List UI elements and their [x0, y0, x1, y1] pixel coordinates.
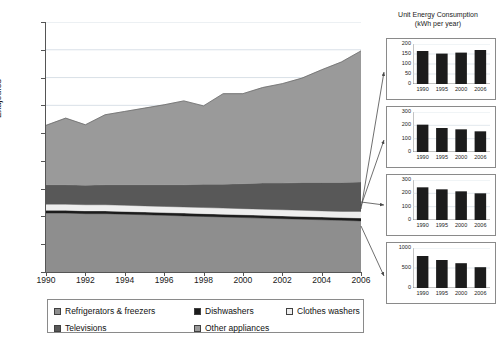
legend-label-refrigerators-freezers: Refrigerators & freezers [65, 307, 155, 316]
inset-bar [455, 129, 467, 152]
area-band-other-appliances [46, 51, 361, 185]
inset-chart-clothes-washers: 01002003001990199520002006 [386, 106, 496, 168]
area-band-refrigerators-freezers [46, 213, 361, 272]
inset-x-tick-label: 2006 [471, 291, 489, 297]
inset-y-tick-label: 1000 [389, 245, 411, 251]
inset-x-tick-label: 1995 [433, 155, 451, 161]
inset-bar [475, 50, 487, 84]
legend-item-other-appliances: Other appliances [194, 324, 269, 333]
inset-y-tick-label: 100 [389, 61, 411, 67]
inset-plot-area: 01002003001990199520002006 [413, 112, 490, 152]
x-tick-label: 2006 [341, 276, 381, 285]
stacked-area-svg [46, 22, 361, 272]
inset-x-tick-label: 2006 [471, 155, 489, 161]
inset-x-tick-label: 1990 [414, 87, 432, 93]
inset-bar [475, 267, 487, 288]
inset-y-tick-label: 200 [389, 190, 411, 196]
inset-bars-svg [413, 248, 490, 288]
inset-y-tick-label: 500 [389, 265, 411, 271]
inset-bar [436, 54, 448, 84]
inset-bar [417, 51, 429, 84]
legend-label-televisions: Televisions [65, 324, 107, 333]
legend-label-other-appliances: Other appliances [205, 324, 269, 333]
inset-x-tick-label: 2006 [471, 87, 489, 93]
inset-x-tick-label: 1990 [414, 155, 432, 161]
legend-item-clothes-washers: Clothes washers [286, 307, 360, 316]
x-tick-label: 1996 [144, 276, 184, 285]
inset-x-tick-label: 2006 [471, 223, 489, 229]
legend-swatch-refrigerators-freezers [54, 308, 61, 315]
legend-row: Refrigerators & freezers Dishwashers Clo… [54, 304, 363, 318]
inset-chart-refrigerators-freezers: 050010001990199520002006 [386, 242, 496, 304]
inset-y-tick-label: 0 [389, 217, 411, 223]
y-axis-title: Exajoules [0, 79, 3, 118]
inset-y-tick-label: 100 [389, 204, 411, 210]
inset-y-tick-label: 300 [389, 177, 411, 183]
x-tick-label: 2000 [223, 276, 263, 285]
inset-y-tick-label: 200 [389, 122, 411, 128]
chart-figure: Exajoules 0.00.51.01.52.02.53.03.54.04.5… [0, 0, 498, 342]
legend-swatch-dishwashers [194, 308, 201, 315]
x-tick-label: 1990 [26, 276, 66, 285]
x-tick-label: 1994 [105, 276, 145, 285]
inset-bar [455, 263, 467, 288]
legend-item-refrigerators-freezers: Refrigerators & freezers [54, 307, 194, 316]
legend-swatch-other-appliances [194, 325, 201, 332]
inset-bar [436, 260, 448, 288]
inset-plot-area: 0501001502001990199520002006 [413, 44, 490, 84]
legend-label-clothes-washers: Clothes washers [297, 307, 360, 316]
legend-label-dishwashers: Dishwashers [205, 307, 254, 316]
inset-charts-panel: Unit Energy Consumption (kWh per year) 0… [378, 0, 498, 342]
x-tick-label: 2004 [302, 276, 342, 285]
inset-y-tick-label: 150 [389, 51, 411, 57]
x-tick-label: 1998 [184, 276, 224, 285]
inset-y-tick-label: 100 [389, 136, 411, 142]
main-stacked-area-chart: Exajoules 0.00.51.01.52.02.53.03.54.04.5… [0, 0, 378, 300]
legend-item-televisions: Televisions [54, 324, 194, 333]
inset-y-tick-label: 0 [389, 81, 411, 87]
x-tick-label: 2002 [262, 276, 302, 285]
inset-bars-svg [413, 112, 490, 152]
inset-bar [417, 187, 429, 220]
plot-area [45, 22, 361, 273]
inset-x-tick-label: 1990 [414, 223, 432, 229]
inset-x-tick-label: 2000 [452, 155, 470, 161]
x-tick-label: 1992 [65, 276, 105, 285]
inset-bar [455, 53, 467, 84]
x-tick-mark [361, 272, 362, 276]
legend: Refrigerators & freezers Dishwashers Clo… [47, 299, 364, 333]
inset-x-tick-label: 1995 [433, 291, 451, 297]
inset-chart-dishwashers: 0501001502001990199520002006 [386, 38, 496, 100]
inset-bar [436, 128, 448, 152]
inset-bar [455, 191, 467, 220]
inset-bar [475, 193, 487, 220]
inset-y-tick-label: 200 [389, 41, 411, 47]
inset-x-tick-label: 2000 [452, 291, 470, 297]
inset-title-line-2: (kWh per year) [378, 19, 498, 28]
inset-x-tick-label: 2000 [452, 223, 470, 229]
legend-swatch-clothes-washers [286, 308, 293, 315]
legend-row: Televisions Other appliances [54, 321, 363, 335]
inset-x-tick-label: 1990 [414, 291, 432, 297]
inset-y-tick-label: 0 [389, 285, 411, 291]
inset-bar [436, 189, 448, 220]
legend-swatch-televisions [54, 325, 61, 332]
inset-x-tick-label: 1995 [433, 223, 451, 229]
legend-item-dishwashers: Dishwashers [194, 307, 286, 316]
inset-y-tick-label: 300 [389, 109, 411, 115]
inset-title-line-1: Unit Energy Consumption [378, 10, 498, 19]
inset-panel-title: Unit Energy Consumption (kWh per year) [378, 10, 498, 29]
inset-x-tick-label: 2000 [452, 87, 470, 93]
inset-bar [417, 256, 429, 288]
inset-bar [417, 125, 429, 152]
inset-plot-area: 050010001990199520002006 [413, 248, 490, 288]
inset-bar [475, 131, 487, 152]
inset-x-tick-label: 1995 [433, 87, 451, 93]
inset-chart-televisions: 01002003001990199520002006 [386, 174, 496, 236]
inset-bars-svg [413, 180, 490, 220]
inset-plot-area: 01002003001990199520002006 [413, 180, 490, 220]
inset-y-tick-label: 50 [389, 71, 411, 77]
inset-y-tick-label: 0 [389, 149, 411, 155]
inset-bars-svg [413, 44, 490, 84]
